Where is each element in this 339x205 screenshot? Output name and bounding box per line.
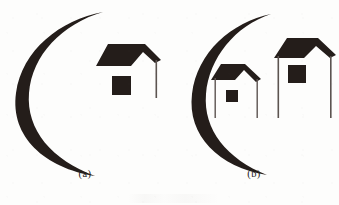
house-large-b [274, 38, 336, 118]
house-window-a [112, 76, 131, 95]
panel-b-drawing [169, 0, 339, 185]
house-roof-large-b [274, 38, 336, 58]
figure-panel-a: (a) [0, 0, 170, 205]
panel-a-drawing [0, 0, 170, 185]
figure-root: (a) (b) [0, 0, 339, 205]
house-small-b [211, 64, 261, 118]
house-window-large-b [288, 65, 306, 83]
house-window-small-b [226, 90, 238, 102]
house-roof-small-b [211, 64, 261, 82]
house-post-right-a [156, 60, 158, 98]
figure-panel-b: (b) [169, 0, 339, 205]
panel-b-caption: (b) [169, 168, 339, 179]
crescent-arc-a [15, 12, 103, 176]
house-post-right-small-b [257, 79, 258, 118]
house-large-a [96, 44, 161, 98]
house-post-left-large-b [278, 56, 280, 118]
page-scan-smudge [128, 194, 220, 203]
house-post-right-large-b [330, 56, 332, 118]
panel-a-caption: (a) [0, 168, 170, 179]
house-roof-a [96, 44, 161, 66]
house-post-left-small-b [215, 78, 216, 118]
